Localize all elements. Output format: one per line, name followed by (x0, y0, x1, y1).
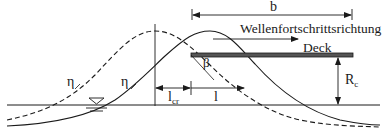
rc-sub: c (354, 79, 358, 89)
eta-left-label: η (67, 75, 74, 89)
b-label: b (270, 0, 277, 14)
wave-deck-diagram: b Wellenfortschrittsrichtung Deck β η η … (0, 0, 387, 134)
eta-left-leader (75, 84, 80, 89)
lcr-sub: cr (172, 96, 179, 106)
direction-label: Wellenfortschrittsrichtung (240, 22, 381, 36)
eta-right-label: η (121, 75, 128, 89)
l-label: l (214, 90, 218, 104)
lcr-label: lcr (168, 90, 179, 106)
deck-label: Deck (303, 41, 331, 55)
rc-main: R (345, 72, 354, 87)
beta-label: β (203, 56, 210, 69)
rc-label: Rc (345, 73, 358, 89)
